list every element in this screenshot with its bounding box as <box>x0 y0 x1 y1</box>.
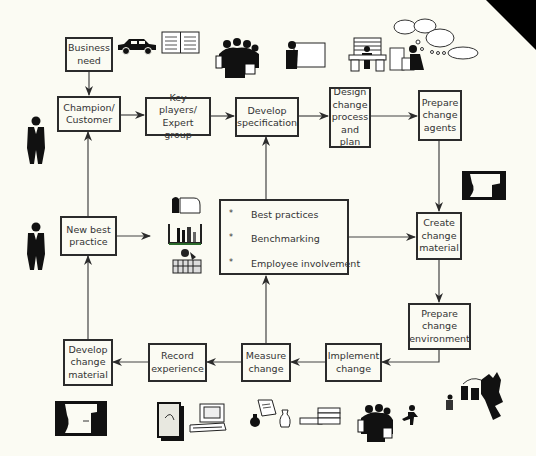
box-prepare-change-environment: Preparechangeenvironment <box>408 303 471 350</box>
conversation-icon <box>55 401 107 436</box>
list-item: * Benchmarking <box>221 233 347 247</box>
box-design-change-process: Designchangeprocessand plan <box>329 87 371 148</box>
industry-icon <box>445 372 505 422</box>
box-business-need: Businessneed <box>65 37 113 72</box>
businessman-icon <box>25 222 47 272</box>
document-icon <box>157 402 185 442</box>
group-meeting-icon <box>215 38 261 78</box>
box-record-experience: Recordexperience <box>148 343 207 382</box>
thinking-person-icon <box>388 18 480 74</box>
box-prepare-change-agents: Preparechangeagents <box>418 90 462 141</box>
box-implement-change: Implementchange <box>325 343 382 382</box>
presenter-board-icon <box>284 40 326 70</box>
lab-equipment-icon <box>167 222 203 246</box>
car-icon <box>116 37 158 55</box>
vase-icon <box>278 409 292 429</box>
businessman-icon <box>25 116 47 166</box>
conversation-icon <box>462 171 506 200</box>
box-measure-change: Measurechange <box>241 343 291 382</box>
runner-icon <box>400 405 420 427</box>
box-create-change-material: Createchangematerial <box>416 212 462 260</box>
box-develop-change-material: Developchangematerial <box>63 339 113 386</box>
box-new-best-practice: New bestpractice <box>60 216 117 256</box>
factory-icon <box>172 248 202 274</box>
box-key-players: Key players/Expert group <box>145 97 211 136</box>
books-icon <box>298 406 342 426</box>
list-item: * Best practices <box>221 209 347 223</box>
open-book-icon <box>161 31 200 54</box>
tools-icon <box>170 195 202 215</box>
ink-bottle-icon <box>248 413 262 427</box>
group-icon <box>357 404 397 442</box>
office-desk-icon <box>348 37 388 72</box>
box-develop-specification: Developspecification <box>235 97 299 137</box>
list-item: * Employee involvement <box>221 258 347 272</box>
box-champion-customer: Champion/Customer <box>57 96 121 132</box>
best-practices-box: * Best practices * Benchmarking * Employ… <box>219 199 349 275</box>
computer-icon <box>188 403 228 433</box>
